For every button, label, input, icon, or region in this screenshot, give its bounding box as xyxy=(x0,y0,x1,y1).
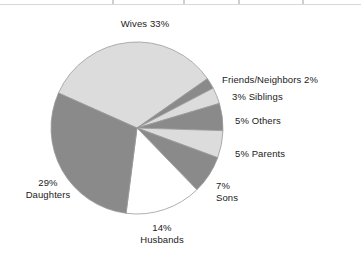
pie-label-parents: 5% Parents xyxy=(235,148,285,160)
pie-label-sons: 7%Sons xyxy=(216,180,238,204)
pie-chart-figure: Wives 33%Friends/Neighbors 2%3% Siblings… xyxy=(0,0,361,258)
pie-label-line: Friends/Neighbors 2% xyxy=(222,74,318,86)
pie-label-line: 14% xyxy=(140,222,184,234)
pie-slices-group xyxy=(51,42,223,214)
pie-label-line: Daughters xyxy=(26,189,71,201)
pie-label-line: 5% Parents xyxy=(235,148,285,160)
pie-label-others: 5% Others xyxy=(235,115,281,127)
pie-label-line: 3% Siblings xyxy=(232,91,283,103)
pie-label-line: 5% Others xyxy=(235,115,281,127)
pie-label-line: 29% xyxy=(26,177,71,189)
pie-label-daughters: 29%Daughters xyxy=(26,177,71,201)
pie-label-friends: Friends/Neighbors 2% xyxy=(222,74,318,86)
pie-label-line: Sons xyxy=(216,192,238,204)
pie-label-line: Husbands xyxy=(140,234,184,246)
pie-label-siblings: 3% Siblings xyxy=(232,91,283,103)
pie-label-husbands: 14%Husbands xyxy=(140,222,184,246)
pie-label-wives: Wives 33% xyxy=(121,18,169,30)
pie-label-line: 7% xyxy=(216,180,238,192)
pie-label-line: Wives 33% xyxy=(121,18,169,30)
pie-graphic xyxy=(0,0,361,258)
